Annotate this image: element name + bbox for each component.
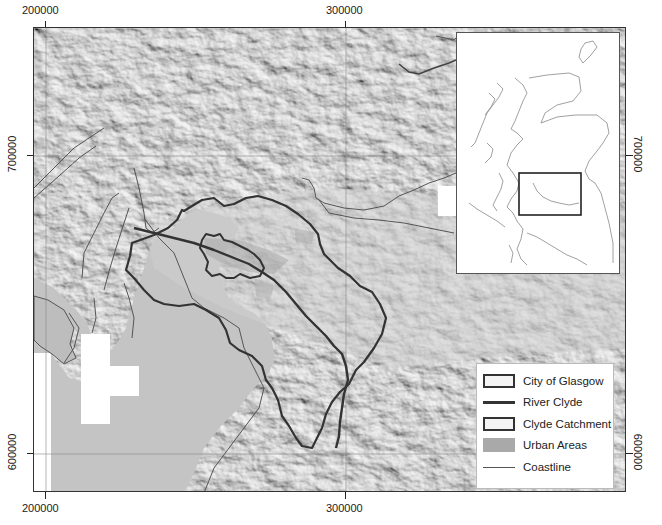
grey-fill-swatch <box>483 438 515 452</box>
legend-label: Clyde Catchment <box>523 418 611 430</box>
legend-item-coastline: Coastline <box>483 456 607 478</box>
thin-line-swatch <box>483 460 515 474</box>
outline-box-swatch <box>483 417 515 431</box>
x-tick-bottom-200000 <box>45 492 46 499</box>
legend-item-clyde-catchment: Clyde Catchment <box>483 413 607 435</box>
scotland-overview <box>457 33 618 272</box>
inset-map[interactable] <box>456 32 620 274</box>
legend-item-river-clyde: River Clyde <box>483 392 607 414</box>
y-tick-label-left-600000: 600000 <box>6 434 18 471</box>
x-tick-label-bottom-200000: 200000 <box>22 502 59 514</box>
legend-label: City of Glasgow <box>523 375 604 387</box>
y-tick-label-right-600000: 600000 <box>632 434 644 471</box>
outline-box-swatch <box>483 374 515 388</box>
y-tick-label-left-700000: 700000 <box>6 136 18 173</box>
x-tick-bottom-300000 <box>345 492 346 499</box>
nodata-block-east <box>438 186 456 216</box>
legend-label: Coastline <box>523 461 571 473</box>
map-frame[interactable]: City of Glasgow River Clyde Clyde Catchm… <box>33 27 626 492</box>
legend-label: Urban Areas <box>523 439 587 451</box>
nodata-block-edge <box>34 353 51 492</box>
study-area-box <box>519 173 581 215</box>
legend: City of Glasgow River Clyde Clyde Catchm… <box>476 363 614 489</box>
y-tick-label-right-700000: 700000 <box>632 136 644 173</box>
legend-label: River Clyde <box>523 396 582 408</box>
thick-line-swatch <box>483 395 515 409</box>
x-tick-label-top-300000: 300000 <box>326 4 363 16</box>
y-tick-right-700000 <box>626 155 633 156</box>
legend-item-city-of-glasgow: City of Glasgow <box>483 370 607 392</box>
inset-coastline <box>469 41 613 265</box>
x-tick-label-bottom-300000: 300000 <box>326 502 363 514</box>
x-tick-label-top-200000: 200000 <box>22 4 59 16</box>
y-tick-right-600000 <box>626 453 633 454</box>
legend-item-urban-areas: Urban Areas <box>483 435 607 457</box>
